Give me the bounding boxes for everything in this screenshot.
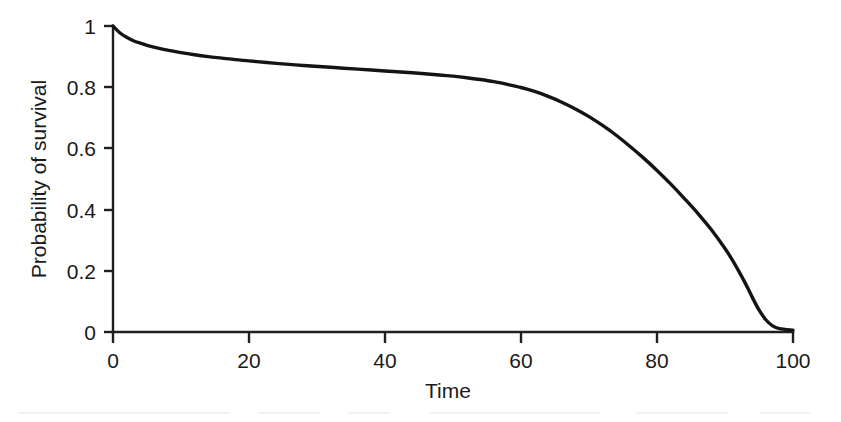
survival-curve-figure: 1 0.8 0.6 0.4 0.2 0 0 20 40 60 80 100 Ti…	[0, 0, 841, 422]
x-tick-label-0: 0	[107, 349, 119, 372]
y-tick-label-0.2: 0.2	[67, 260, 96, 283]
y-tick-label-0.8: 0.8	[67, 76, 96, 99]
y-tick-label-0.4: 0.4	[67, 199, 97, 222]
x-axis-tick-labels: 0 20 40 60 80 100	[107, 349, 810, 372]
y-tick-label-1: 1	[84, 15, 96, 38]
x-tick-label-40: 40	[373, 349, 396, 372]
scan-artifact	[18, 412, 810, 414]
x-tick-label-20: 20	[237, 349, 260, 372]
x-tick-label-80: 80	[645, 349, 668, 372]
x-tick-label-100: 100	[775, 349, 810, 372]
y-axis-title: Probability of survival	[27, 80, 50, 278]
survival-curve-line	[113, 26, 793, 330]
x-axis-title: Time	[425, 379, 471, 402]
x-axis-ticks	[113, 332, 793, 343]
x-tick-label-60: 60	[509, 349, 532, 372]
y-tick-label-0: 0	[84, 321, 96, 344]
y-axis-ticks	[104, 26, 113, 332]
y-tick-label-0.6: 0.6	[67, 137, 96, 160]
y-axis-tick-labels: 1 0.8 0.6 0.4 0.2 0	[67, 15, 97, 344]
survival-plot: 1 0.8 0.6 0.4 0.2 0 0 20 40 60 80 100 Ti…	[0, 0, 841, 422]
